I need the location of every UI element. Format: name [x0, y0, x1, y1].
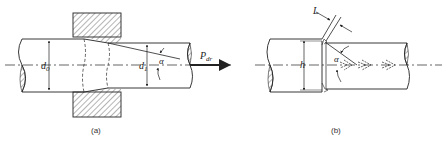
L-dimension: [316, 12, 352, 41]
shear-line: [325, 42, 357, 65]
alpha-arrow-top: [160, 48, 164, 53]
die-bottom: [73, 89, 121, 117]
shear-marker-bottom: [322, 83, 328, 92]
workpiece-thick: [267, 39, 322, 92]
alpha-arrow-b-bottom: [337, 70, 341, 82]
alpha-label-a: α: [159, 56, 164, 66]
caption-b: (b): [331, 126, 341, 135]
caption-a: (a): [91, 126, 101, 135]
workpiece-thin: [326, 43, 410, 89]
d1-label: d1: [139, 60, 148, 73]
alpha-arrow-bottom: [158, 68, 160, 80]
wire-drawing-diagram: d0 d1 α Pdr (a): [0, 0, 442, 141]
drawing-force-label: Pdr: [199, 50, 213, 63]
wire-entry: [19, 39, 85, 92]
figure-a: d0 d1 α Pdr (a): [5, 13, 232, 135]
h-label: h: [300, 59, 305, 70]
die-top: [73, 13, 121, 43]
figure-b: h L α (b): [255, 5, 442, 135]
L-label: L: [312, 5, 319, 16]
die-angle-line: [108, 43, 180, 59]
alpha-arrow-b-top: [341, 46, 349, 53]
wire-exit: [108, 43, 193, 88]
alpha-label-b: α: [334, 54, 339, 64]
